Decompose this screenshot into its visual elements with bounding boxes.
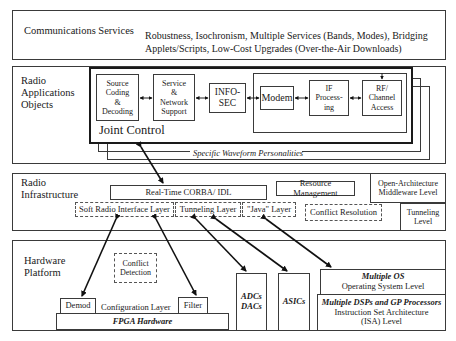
soft-radio-interface-text: Soft Radio Interface Layer — [79, 205, 170, 215]
multiple-os-block: Multiple OS Operating System Level — [320, 269, 446, 295]
conflict-resolution-block: Conflict Resolution — [305, 204, 382, 221]
multiple-dsps-block: Multiple DSPs and GP Processors Instruct… — [317, 294, 446, 331]
asics-text: ASICs — [283, 297, 306, 307]
radio-applications-label-2: Applications — [21, 87, 75, 98]
source-coding-text-1: Source — [106, 79, 128, 88]
fpga-hardware-block: FPGA Hardware — [56, 313, 229, 330]
rf-channel-text-3: Access — [371, 103, 394, 112]
if-processing-block: IF Process- ing — [309, 80, 349, 116]
resource-management-text: Resource Management — [277, 179, 354, 199]
service-network-text-3: Network — [160, 98, 188, 107]
communications-services-layer: Communications Services Robustness, Isoc… — [12, 10, 446, 60]
if-processing-text-3: ing — [324, 103, 334, 112]
middleware-level-text-2: Middleware Level — [379, 188, 438, 197]
source-coding-text-3: & — [114, 98, 120, 107]
asics-block: ASICs — [278, 273, 310, 331]
infosec-block: INFO- SEC — [209, 83, 246, 113]
radio-infrastructure-label-1: Radio — [21, 177, 46, 188]
adcs-dacs-block: ADCs DACs — [236, 273, 267, 331]
soft-radio-interface-layer: Soft Radio Interface Layer — [75, 202, 174, 217]
demod-text: Demod — [65, 301, 90, 311]
source-coding-block: Source Coding & Decoding — [96, 74, 139, 121]
service-network-text-1: Service — [162, 79, 186, 88]
conflict-detection-block: Conflict Detection — [114, 253, 157, 283]
modem-block: Modem — [260, 86, 294, 110]
dacs-text: DACs — [241, 302, 262, 312]
communications-services-desc-line2: Applets/Scripts, Low-Cost Upgrades (Over… — [145, 43, 402, 54]
source-coding-text-4: Decoding — [102, 107, 133, 116]
resource-management-block: Resource Management — [276, 181, 355, 196]
hardware-platform-label-1: Hardware — [24, 255, 65, 266]
java-layer: "Java" Layer — [242, 202, 296, 217]
java-layer-text: "Java" Layer — [247, 205, 291, 215]
radio-infrastructure-label-2: Infrastructure — [21, 189, 78, 200]
rf-channel-text-2: Channel — [369, 93, 396, 102]
service-network-text-2: & — [171, 88, 177, 97]
fpga-hardware-text: FPGA Hardware — [113, 317, 173, 327]
communications-services-desc-line1: Robustness, Isochronism, Multiple Servic… — [145, 30, 428, 41]
tunneling-layer-text: Tunneling Layer — [180, 205, 237, 215]
modem-text: Modem — [261, 92, 292, 104]
conflict-resolution-text: Conflict Resolution — [310, 208, 377, 218]
source-coding-text-2: Coding — [106, 88, 130, 97]
service-network-block: Service & Network Support — [153, 74, 195, 121]
if-processing-text-1: IF — [325, 84, 332, 93]
configuration-layer-label: Configuration Layer — [101, 302, 171, 312]
conflict-detection-text-1: Conflict — [122, 259, 148, 268]
demod-block: Demod — [60, 298, 96, 314]
tunneling-level-block: Tunneling Level — [400, 203, 446, 231]
waveform-personalities-label: Specific Waveform Personalities — [193, 148, 303, 158]
tunneling-level-text-1: Tunneling — [407, 208, 440, 217]
rf-channel-text-1: RF/ — [376, 84, 388, 93]
multiple-os-subtitle: Operating System Level — [342, 282, 425, 292]
radio-applications-label-3: Objects — [21, 99, 53, 110]
corba-idl-block: Real-Time CORBA/ IDL — [110, 185, 267, 200]
joint-control-label: Joint Control — [99, 123, 165, 138]
multiple-dsps-subtitle-2: (ISA) Level — [361, 317, 402, 327]
middleware-level-text-1: Open-Architecture — [378, 179, 438, 188]
radio-applications-label-1: Radio — [21, 75, 46, 86]
rf-channel-access-block: RF/ Channel Access — [362, 80, 402, 116]
infosec-text-1: INFO- — [215, 87, 240, 98]
infosec-text-2: SEC — [219, 98, 236, 109]
hardware-platform-label-2: Platform — [24, 267, 61, 278]
filter-block: Filter — [178, 297, 208, 314]
if-processing-text-2: Process- — [315, 93, 342, 102]
service-network-text-4: Support — [161, 107, 186, 116]
middleware-level-block: Open-Architecture Middleware Level — [370, 173, 446, 203]
tunneling-level-text-2: Level — [414, 217, 432, 226]
tunneling-layer: Tunneling Layer — [175, 202, 241, 217]
communications-services-label: Communications Services — [24, 25, 134, 36]
filter-text: Filter — [184, 301, 202, 311]
conflict-detection-text-2: Detection — [120, 268, 151, 277]
corba-idl-text: Real-Time CORBA/ IDL — [145, 188, 231, 198]
